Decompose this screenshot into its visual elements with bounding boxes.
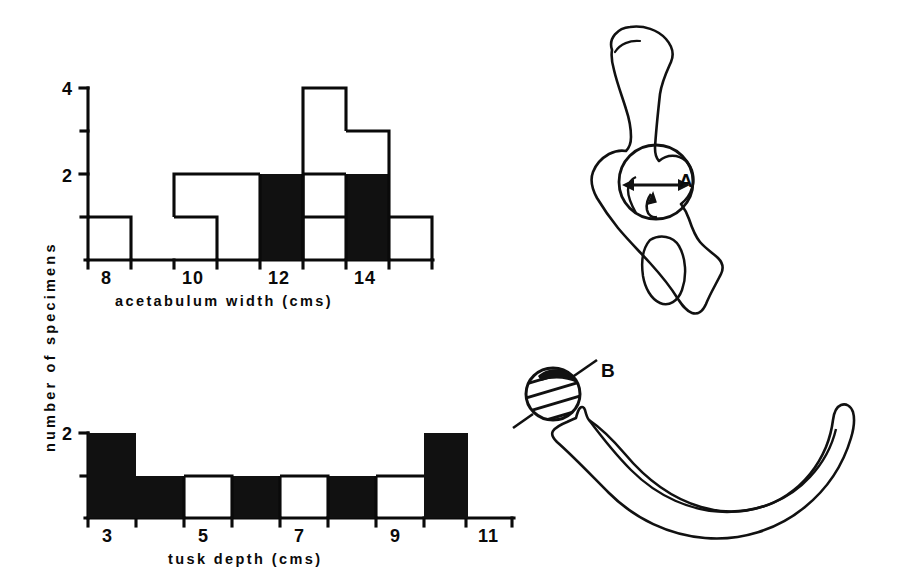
figure-canvas: number of specimens 4 2 bbox=[0, 0, 910, 585]
bottom-chart-bar-8 bbox=[280, 476, 328, 518]
bottom-chart-bar-11-filled bbox=[424, 433, 468, 518]
cross-section-leader-line-lower bbox=[513, 414, 533, 428]
pelvis-svg bbox=[540, 8, 770, 328]
bottom-chart-bar-7-filled bbox=[232, 476, 280, 518]
bottom-chart-xtick-label-9: 9 bbox=[390, 526, 401, 547]
bottom-chart-open-bars bbox=[184, 476, 424, 518]
obturator-foramen bbox=[642, 237, 685, 305]
bottom-chart-plot-area bbox=[0, 0, 540, 560]
bottom-chart-xtick-label-5: 5 bbox=[198, 526, 209, 547]
bottom-chart-xtick-label-7: 7 bbox=[294, 526, 305, 547]
tusk-outline bbox=[552, 404, 854, 538]
bottom-chart-bar-4-filled bbox=[136, 476, 184, 518]
ilium-crest-notch bbox=[615, 41, 640, 52]
pelvis-measurement-label-a: A bbox=[679, 170, 693, 192]
tusk-inner-edge bbox=[589, 420, 836, 512]
bottom-chart-bar-6 bbox=[184, 476, 232, 518]
cross-section-leader-line-upper bbox=[571, 360, 597, 378]
bottom-chart-xtick-label-11: 11 bbox=[478, 526, 499, 547]
tusk-measurement-label-b: B bbox=[601, 360, 615, 382]
tusk-svg bbox=[505, 352, 905, 552]
bottom-chart-x-axis-caption: tusk depth (cms) bbox=[168, 551, 322, 567]
bottom-chart-xtick-label-3: 3 bbox=[102, 526, 113, 547]
pelvis-outline bbox=[592, 27, 723, 314]
bottom-chart-bar-3-filled bbox=[88, 433, 136, 518]
bottom-chart-bar-9-filled bbox=[328, 476, 376, 518]
